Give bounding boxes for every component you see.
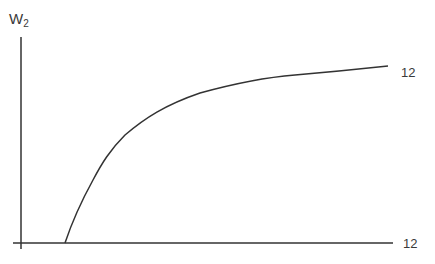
y-axis-label-subscript: 2 <box>23 18 29 29</box>
diagram-canvas <box>0 0 435 264</box>
curve-label: 12 <box>401 66 415 79</box>
y-axis-label: W2 <box>9 11 29 29</box>
x-axis-end-label: 12 <box>403 237 417 250</box>
curve-12 <box>65 66 388 243</box>
y-axis-label-text: W <box>9 10 23 27</box>
